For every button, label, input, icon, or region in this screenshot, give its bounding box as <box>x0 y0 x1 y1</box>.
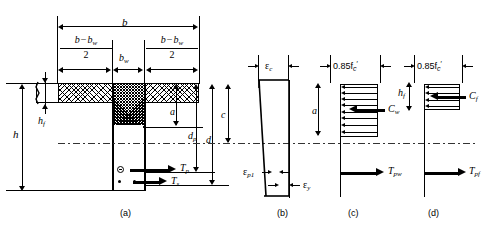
ext-line-d-bottom <box>145 185 229 186</box>
dim-line-overhang-left <box>60 69 109 70</box>
stress-label-web: 0.85fc′ <box>333 60 358 72</box>
panel-label-a: (a) <box>120 208 131 218</box>
dim-label-a-section: a <box>170 107 175 117</box>
force-line-Tpw <box>340 172 378 175</box>
web-pressure-arrowhead-1 <box>341 85 345 89</box>
dim-line-c <box>228 86 229 142</box>
force-label-Tpw: Tpw <box>388 166 402 178</box>
panel-label-c: (c) <box>348 208 359 218</box>
dim-line-a <box>176 86 177 125</box>
figure-canvas: b b−bw 2 b−bw 2 bw <box>0 0 486 235</box>
dim-arrow-a-web-top <box>315 83 321 88</box>
web-pressure-arrowhead-8 <box>341 130 345 134</box>
dim-arrow-h-top <box>19 84 25 89</box>
flange-pressure-arrow-1 <box>429 87 459 88</box>
reference-axis-c <box>340 84 341 197</box>
force-arrow-Tp <box>168 165 176 173</box>
ext-line-stress-d-left <box>414 55 415 83</box>
dim-arrow-oh-r-2 <box>193 67 198 73</box>
dim-arrow-stress-d-r <box>462 64 466 68</box>
web-edge-right <box>144 83 146 191</box>
ext-line-web-left <box>112 40 113 84</box>
force-arrow-Cf <box>430 92 438 100</box>
dim-arrow-ep1-inner <box>279 170 283 174</box>
reference-axis-d <box>424 84 425 197</box>
dim-arrow-stress-d-l <box>411 64 415 68</box>
dim-arrow-hf-bot <box>42 104 48 109</box>
panel-label-d: (d) <box>428 208 439 218</box>
dim-arrow-ey-r <box>289 183 293 187</box>
dim-arrow-hf-flange-bot <box>406 106 412 111</box>
web-pressure-arrowhead-2 <box>341 91 345 95</box>
web-pressure-arrow-8 <box>345 132 377 133</box>
dim-arrow-hf-top <box>42 78 48 83</box>
stress-label-flange: 0.85fc′ <box>417 60 442 72</box>
dim-arrow-ey-l <box>275 183 279 187</box>
ext-line-stress-c-left <box>330 55 331 83</box>
force-label-Tpf: Tpf <box>469 166 480 178</box>
force-line-Ts <box>133 181 161 184</box>
force-line-Cf <box>436 96 466 99</box>
ext-line-stress-c-right <box>380 55 381 83</box>
dim-arrow-ec-r <box>288 64 292 68</box>
dim-arrow-a-web-bot <box>315 131 321 136</box>
strain-diagram-b <box>256 78 302 200</box>
dim-arrow-oh-l-1 <box>58 67 63 73</box>
dim-line-h <box>22 86 23 187</box>
dim-arrow-b-right <box>193 24 198 30</box>
web-pressure-arrow-7 <box>345 125 377 126</box>
dim-arrow-dp-top <box>193 84 199 89</box>
dim-arrow-ec-l <box>255 64 259 68</box>
web-pressure-arrowhead-3 <box>341 97 345 101</box>
dim-label-hf: hf <box>38 116 45 128</box>
force-arrow-Ts <box>159 177 167 185</box>
web-pressure-arrow-6 <box>345 118 377 119</box>
web-pressure-arrow-2 <box>345 93 377 94</box>
force-arrow-Tpw <box>376 168 384 176</box>
dim-arrow-dp-bot <box>193 167 199 172</box>
web-pressure-arrow-3 <box>345 99 377 100</box>
dim-line-b <box>60 26 196 27</box>
force-line-Cw <box>355 109 385 112</box>
dim-arrow-bw-1 <box>113 67 118 73</box>
panel-label-b: (b) <box>277 208 288 218</box>
break-line-symbol <box>33 82 43 105</box>
force-arrow-Tpf <box>458 168 466 176</box>
ext-line-b-right <box>199 16 200 84</box>
dim-arrow-d-bot <box>209 180 215 185</box>
web-pressure-arrowhead-4 <box>341 103 345 107</box>
dim-arrow-oh-r-1 <box>146 67 151 73</box>
dim-arrow-h-bottom <box>19 186 25 191</box>
force-line-Tp <box>130 169 170 172</box>
dim-line-overhang-right <box>148 69 196 70</box>
reference-axis-b <box>289 80 290 198</box>
flange-pressure-arrowhead-2 <box>425 91 429 95</box>
dim-line-d <box>212 86 213 183</box>
dim-arrow-stress-c-l <box>327 64 331 68</box>
dim-line-a-web <box>318 86 319 135</box>
web-pressure-arrow-1 <box>345 87 377 88</box>
web-edge-left <box>112 83 114 191</box>
web-pressure-arrowhead-5 <box>341 110 345 114</box>
dim-line-dp <box>196 86 197 170</box>
flange-pressure-arrowhead-3 <box>425 98 429 102</box>
flange-pressure-arrowhead-4 <box>425 104 429 108</box>
dim-arrow-oh-l-2 <box>106 67 111 73</box>
dim-arrow-b-left <box>58 24 63 30</box>
force-line-Tpf <box>424 172 460 175</box>
flange-pressure-arrow-3 <box>429 100 459 101</box>
flange-pressure-arrowhead-1 <box>425 85 429 89</box>
ext-line-a-bottom <box>145 127 203 128</box>
web-pressure-arrowhead-6 <box>341 116 345 120</box>
force-label-Tp: Tp <box>180 163 189 175</box>
rebar-dot-left <box>118 180 121 183</box>
ext-line-web-right <box>144 40 145 84</box>
strain-label-ey: εy <box>303 180 310 192</box>
dim-label-hf-flange: hf <box>398 88 405 100</box>
force-label-Cw: Cw <box>388 104 399 116</box>
dim-arrow-a-top <box>173 84 179 89</box>
web-pressure-arrowhead-7 <box>341 123 345 127</box>
dim-arrow-hf-flange-top <box>406 82 412 87</box>
dim-label-overhang-left: b−bw 2 <box>60 34 112 60</box>
strain-label-ep1: εp1 <box>243 167 254 179</box>
